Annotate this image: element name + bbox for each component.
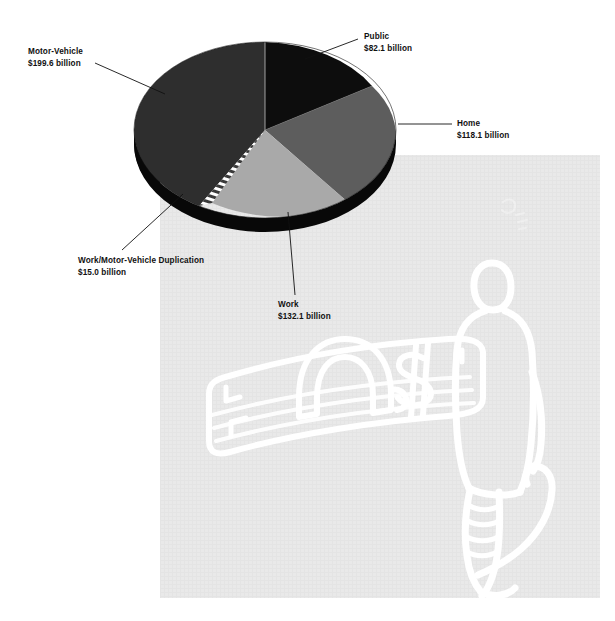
callout-work-value: $132.1 billion (278, 311, 331, 323)
callout-public-value: $82.1 billion (364, 43, 412, 55)
figure-canvas: Public $82.1 billion Motor-Vehicle $199.… (0, 0, 615, 621)
callout-home-value: $118.1 billion (457, 130, 509, 142)
callout-home-label: Home (457, 118, 509, 130)
callout-home: Home $118.1 billion (457, 118, 509, 141)
pie-top-face (134, 42, 396, 217)
callout-work: Work $132.1 billion (278, 299, 331, 322)
callout-duplication-value: $15.0 billion (78, 267, 204, 279)
leader-line-duplication (122, 194, 183, 250)
leader-line-motor-vehicle (95, 63, 165, 94)
callout-duplication: Work/Motor-Vehicle Duplication $15.0 bil… (78, 255, 204, 278)
callout-motor-vehicle-label: Motor-Vehicle (28, 46, 83, 58)
callout-motor-vehicle: Motor-Vehicle $199.6 billion (28, 46, 83, 69)
callout-public-label: Public (364, 31, 412, 43)
callout-work-label: Work (278, 299, 331, 311)
leader-line-public (305, 39, 358, 59)
callout-public: Public $82.1 billion (364, 31, 412, 54)
callout-duplication-label: Work/Motor-Vehicle Duplication (78, 255, 204, 267)
callout-motor-vehicle-value: $199.6 billion (28, 58, 83, 70)
